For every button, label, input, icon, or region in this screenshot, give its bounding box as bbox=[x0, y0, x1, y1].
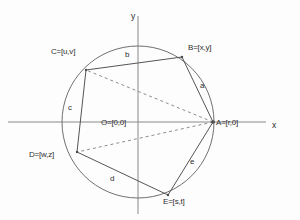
side-d-line bbox=[77, 152, 168, 195]
vertex-label-D: D=[w,z] bbox=[29, 150, 54, 159]
vertex-label-B: B=[x,y] bbox=[188, 43, 211, 52]
pentagon-diagram-svg bbox=[0, 0, 300, 220]
side-label-c: c bbox=[68, 103, 72, 112]
diagonal-ad-line bbox=[77, 122, 213, 152]
diagonal-ac-line bbox=[86, 70, 213, 122]
side-label-b: b bbox=[125, 50, 129, 59]
vertex-label-C: C=[u,v] bbox=[51, 47, 75, 56]
origin-label: O=[0,0] bbox=[101, 118, 126, 127]
vertex-dot-A bbox=[211, 120, 215, 124]
vertex-dot-E bbox=[167, 194, 169, 196]
x-axis-label: x bbox=[272, 121, 276, 130]
diagram-canvas: x y O=[0,0] A=[r,0] B=[x,y] C=[u,v] D=[w… bbox=[0, 0, 300, 220]
side-c-line bbox=[77, 70, 86, 152]
vertex-label-A: A=[r,0] bbox=[216, 118, 238, 127]
vertex-dot-B bbox=[181, 56, 183, 58]
vertex-dot-D bbox=[76, 151, 78, 153]
side-b-line bbox=[86, 57, 182, 70]
y-axis-label: y bbox=[131, 12, 135, 21]
vertex-label-E: E=[s,t] bbox=[163, 197, 185, 206]
side-label-e: e bbox=[190, 157, 194, 166]
vertex-dot-C bbox=[85, 69, 87, 71]
side-label-d: d bbox=[110, 174, 114, 183]
side-a-line bbox=[182, 57, 213, 122]
side-label-a: a bbox=[200, 81, 204, 90]
